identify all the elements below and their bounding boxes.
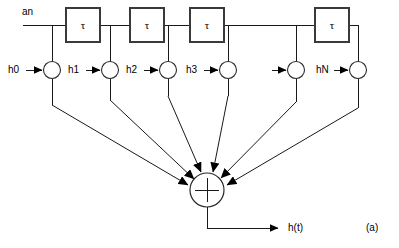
- tapped-delay-line-diagram: τ τ τ τ an: [0, 0, 399, 248]
- coefficient-label-h2: h2: [126, 64, 138, 75]
- summing-diagonals: [52, 96, 358, 185]
- coefficient-label-h1: h1: [68, 64, 80, 75]
- summing-line-2: [168, 96, 201, 172]
- multiplier-node-h2: [160, 62, 177, 79]
- figure-canvas: τ τ τ τ an: [0, 0, 399, 248]
- delay-box-label-4: τ: [330, 19, 335, 31]
- coefficient-label-h3: h3: [186, 64, 198, 75]
- delay-box-label-2: τ: [145, 19, 150, 31]
- output-path: h(t): [207, 207, 303, 233]
- summer-node: [190, 173, 224, 207]
- multiplier-node-h1: [102, 62, 119, 79]
- delay-chain: τ τ τ τ an: [22, 6, 358, 42]
- delay-box: τ: [190, 8, 224, 42]
- multiplier-node-h3: [220, 62, 237, 79]
- figure-caption: (a): [366, 222, 378, 233]
- delay-box: τ: [315, 8, 349, 42]
- output-label-ht: h(t): [288, 222, 303, 233]
- delay-box-label-3: τ: [205, 19, 210, 31]
- coefficient-label-h0: h0: [8, 64, 20, 75]
- summing-line-3: [213, 96, 228, 172]
- delay-box: τ: [66, 8, 100, 42]
- multiplier-node-hN: [350, 62, 367, 79]
- summing-line-1: [110, 100, 194, 179]
- tap-output-stubs: [52, 79, 358, 109]
- multiplier-node-h0: [44, 62, 61, 79]
- summing-line-5: [227, 108, 358, 185]
- summing-line-0: [52, 105, 188, 185]
- delay-box: τ: [130, 8, 164, 42]
- multiplier-node-unlabeled: [288, 62, 305, 79]
- input-label-an: an: [22, 6, 33, 17]
- delay-box-label-1: τ: [81, 19, 86, 31]
- coefficient-label-hN: hN: [316, 64, 329, 75]
